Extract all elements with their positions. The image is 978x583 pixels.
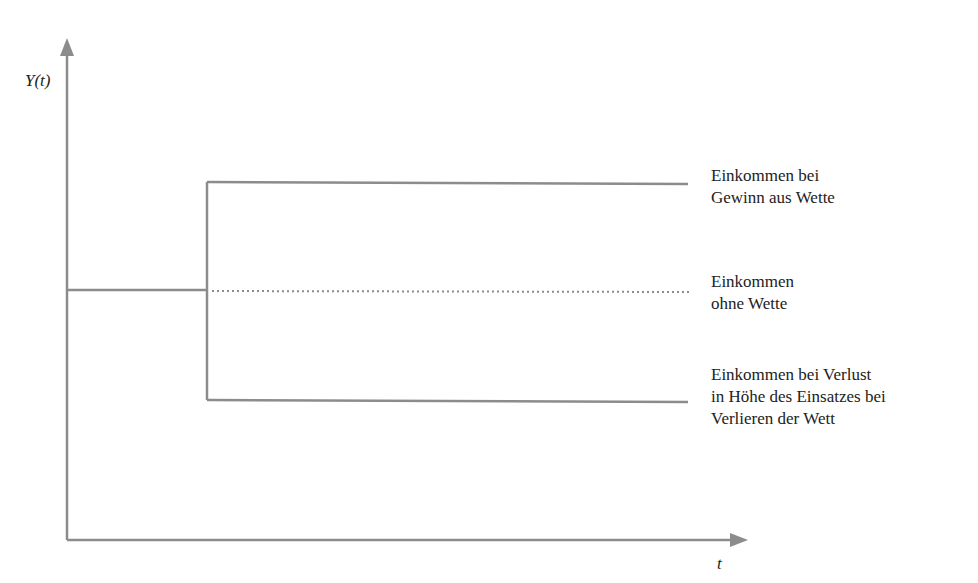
income-win-line: [207, 182, 688, 184]
label-income-win: Einkommen bei Gewinn aus Wette: [711, 165, 835, 209]
income-loss-line: [207, 400, 688, 402]
x-axis-label: t: [717, 553, 722, 575]
label-income-loss: Einkommen bei Verlust in Höhe des Einsat…: [711, 364, 886, 430]
y-axis-arrow-icon: [60, 38, 74, 56]
y-axis-label: Y(t): [25, 70, 51, 92]
x-axis-arrow-icon: [730, 533, 748, 547]
label-income-no-bet: Einkommen ohne Wette: [711, 271, 794, 315]
income-diagram: [0, 0, 978, 583]
income-no-bet-line: [212, 291, 690, 292]
